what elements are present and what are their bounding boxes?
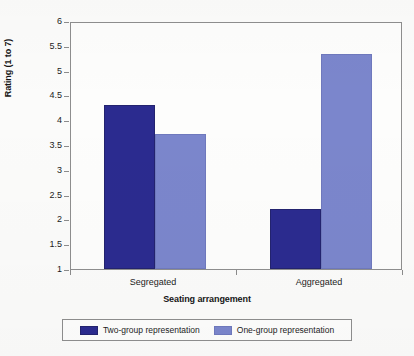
- dark-blue-swatch: [80, 326, 98, 335]
- x-axis-tick-mark: [70, 270, 71, 275]
- bar-chart-figure: Rating (1 to 7) 65.554.543.532.521.51 Se…: [0, 0, 414, 356]
- y-axis-tick-label: 1.5: [38, 240, 62, 249]
- y-axis-tick-mark: [64, 196, 69, 197]
- y-axis-tick-label: 4.5: [38, 91, 62, 100]
- bar: [321, 54, 372, 269]
- y-axis-tick-mark: [64, 47, 69, 48]
- y-axis-tick-label: 3: [38, 166, 62, 175]
- y-axis-tick-mark: [64, 220, 69, 221]
- legend-item-label: Two-group representation: [103, 325, 200, 335]
- plot-area: [70, 22, 402, 270]
- bar: [270, 209, 321, 269]
- y-axis-tick-mark: [64, 146, 69, 147]
- y-axis-tick-label: 1: [38, 265, 62, 274]
- bar: [155, 134, 206, 269]
- x-axis-tick-mark: [236, 270, 237, 275]
- y-axis-tick-mark: [64, 171, 69, 172]
- light-blue-swatch: [214, 326, 232, 335]
- legend-item: One-group representation: [214, 325, 334, 335]
- x-axis-title: Seating arrangement: [0, 294, 414, 304]
- y-axis-tick-mark: [64, 22, 69, 23]
- y-axis-tick-mark: [64, 270, 69, 271]
- x-axis-category-label: Segregated: [93, 277, 213, 287]
- bars-container: [71, 23, 401, 269]
- y-axis-tick-label: 2.5: [38, 191, 62, 200]
- y-axis-tick-label: 2: [38, 215, 62, 224]
- y-axis-tick-label: 3.5: [38, 141, 62, 150]
- y-axis-tick-mark: [64, 245, 69, 246]
- legend-item-label: One-group representation: [237, 325, 334, 335]
- x-axis-category-label: Aggregated: [259, 277, 379, 287]
- legend-item: Two-group representation: [80, 325, 200, 335]
- y-axis-tick-mark: [64, 72, 69, 73]
- bar: [104, 105, 155, 269]
- y-axis-tick-mark: [64, 96, 69, 97]
- y-axis-title: Rating (1 to 7): [3, 8, 13, 128]
- y-axis-tick-label: 6: [38, 17, 62, 26]
- y-axis-tick-label: 5.5: [38, 42, 62, 51]
- y-axis-tick-label: 4: [38, 116, 62, 125]
- chart-legend: Two-group representationOne-group repres…: [62, 319, 352, 341]
- y-axis-tick-mark: [64, 121, 69, 122]
- x-axis-tick-mark: [402, 270, 403, 275]
- y-axis-tick-label: 5: [38, 67, 62, 76]
